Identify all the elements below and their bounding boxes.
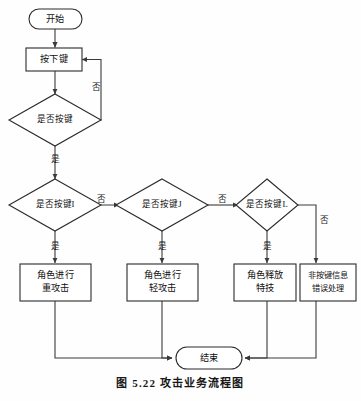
node-error-handle-line1: 非按键信息	[308, 270, 349, 280]
edge-label-any-key-no: 否	[92, 82, 101, 92]
node-decide-key-i-label: 是否按键I	[36, 198, 75, 209]
edge-heavy-to-end	[55, 301, 172, 358]
node-special-skill-line1: 角色释放	[247, 269, 284, 280]
node-end-label: 结束	[200, 352, 218, 363]
figure-caption: 图 5.22 攻击业务流程图	[0, 374, 361, 390]
edge-label-key-l-no: 否	[320, 215, 329, 225]
node-decide-key-l-label: 是否按键L	[246, 198, 287, 209]
edge-label-any-key-yes: 是	[51, 154, 60, 164]
edge-label-key-j-yes: 是	[158, 241, 167, 251]
node-error-handle-line2: 错误处理	[312, 283, 345, 293]
edge-label-key-l-yes: 是	[263, 241, 272, 251]
node-decide-any-key-label: 是否按键	[37, 113, 73, 124]
flowchart-figure: loop back up to press key (right side) -…	[0, 0, 361, 401]
edge-light-to-end	[162, 301, 172, 358]
node-decide-key-j-label: 是否按键J	[142, 198, 182, 209]
node-start-label: 开始	[46, 13, 64, 24]
edge-label-key-i-no: 否	[97, 194, 106, 204]
edge-skill-to-end	[245, 301, 267, 358]
node-light-attack-line1: 角色进行	[144, 269, 181, 280]
flowchart-canvas: loop back up to press key (right side) -…	[0, 0, 361, 401]
node-error-handle[interactable]	[300, 264, 356, 301]
edge-label-key-i-yes: 是	[51, 241, 60, 251]
node-special-skill-line2: 特技	[256, 282, 274, 293]
edge-label-key-j-no: 否	[218, 194, 227, 204]
edge-key-l-no-to-error	[296, 205, 316, 263]
node-heavy-attack-line1: 角色进行	[37, 269, 74, 280]
node-press-key-label: 按下键	[40, 53, 68, 64]
node-light-attack-line2: 轻攻击	[149, 282, 177, 293]
edge-error-to-end	[245, 301, 316, 358]
node-heavy-attack-line2: 重攻击	[42, 282, 70, 293]
